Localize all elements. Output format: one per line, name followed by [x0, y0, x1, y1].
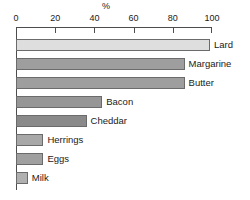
- bar-bacon[interactable]: [16, 96, 102, 108]
- bar-label-margarine: Margarine: [189, 58, 232, 70]
- bar-row: Eggs: [16, 153, 250, 165]
- bars-area: LardMargarineButterBaconCheddarHerringsE…: [0, 0, 250, 200]
- bar-row: Bacon: [16, 96, 250, 108]
- bar-margarine[interactable]: [16, 58, 185, 70]
- bar-lard[interactable]: [16, 39, 210, 51]
- bar-row: Herrings: [16, 134, 250, 146]
- bar-row: Lard: [16, 39, 250, 51]
- bar-butter[interactable]: [16, 77, 185, 89]
- bar-label-bacon: Bacon: [106, 96, 133, 108]
- bar-label-milk: Milk: [32, 172, 49, 184]
- bar-chart: % 020406080100 LardMargarineButterBaconC…: [0, 0, 250, 200]
- bar-herrings[interactable]: [16, 134, 43, 146]
- bar-milk[interactable]: [16, 172, 28, 184]
- bar-row: Butter: [16, 77, 250, 89]
- bar-row: Margarine: [16, 58, 250, 70]
- bar-eggs[interactable]: [16, 153, 43, 165]
- bar-label-cheddar: Cheddar: [91, 115, 127, 127]
- bar-label-eggs: Eggs: [47, 153, 69, 165]
- bar-label-herrings: Herrings: [47, 134, 83, 146]
- bar-label-butter: Butter: [189, 77, 214, 89]
- bar-label-lard: Lard: [214, 39, 233, 51]
- bar-row: Milk: [16, 172, 250, 184]
- bar-row: Cheddar: [16, 115, 250, 127]
- bar-cheddar[interactable]: [16, 115, 87, 127]
